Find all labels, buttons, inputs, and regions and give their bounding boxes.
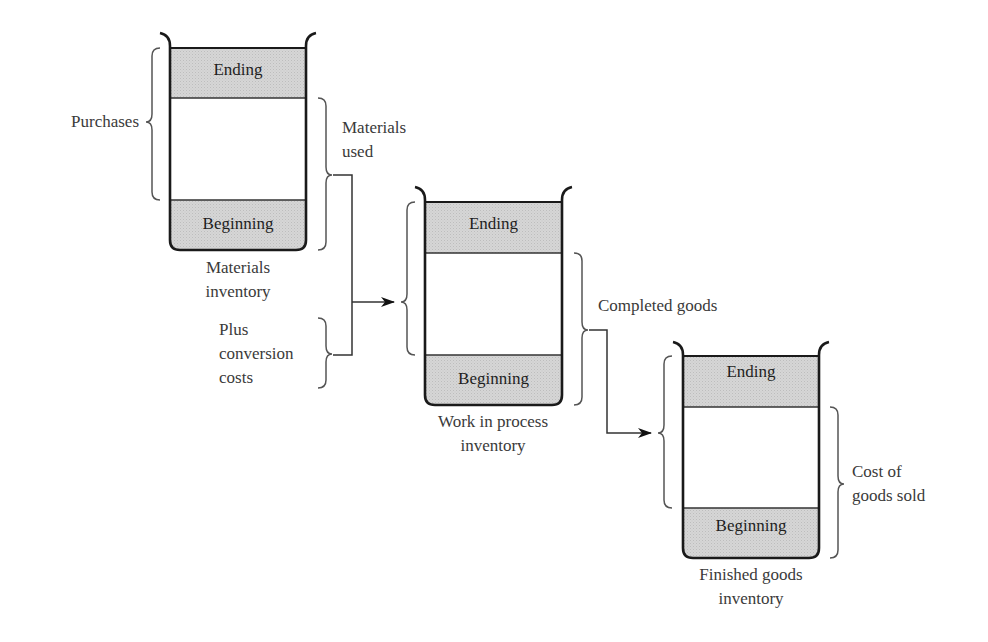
purchases-brace bbox=[146, 48, 160, 200]
completed-goods-brace bbox=[574, 253, 588, 405]
materials-used-label-line2: used bbox=[342, 140, 373, 164]
completed-goods-label: Completed goods bbox=[598, 294, 717, 318]
materials-to-wip-connector bbox=[333, 175, 352, 355]
materials-caption-line1: Materials bbox=[168, 256, 308, 280]
materials-middle-band bbox=[170, 98, 306, 200]
purchases-label: Purchases bbox=[0, 110, 139, 134]
fg-middle-band bbox=[683, 407, 819, 508]
cogs-label-line1: Cost of bbox=[852, 460, 902, 484]
inventory-flow-diagram bbox=[0, 0, 988, 642]
fg-caption-line2: inventory bbox=[671, 587, 831, 611]
costs-label: costs bbox=[219, 366, 253, 390]
wip-ending-label: Ending bbox=[425, 214, 562, 234]
wip-input-brace bbox=[401, 202, 415, 355]
materials-caption-line2: inventory bbox=[168, 280, 308, 304]
wip-to-fg-arrow bbox=[589, 330, 651, 433]
fg-beginning-label: Beginning bbox=[683, 516, 819, 536]
fg-input-brace bbox=[658, 356, 672, 508]
conversion-costs-brace bbox=[318, 318, 332, 388]
materials-used-label-line1: Materials bbox=[342, 116, 406, 140]
wip-middle-band bbox=[425, 253, 562, 355]
wip-beginning-label: Beginning bbox=[425, 369, 562, 389]
fg-ending-label: Ending bbox=[683, 362, 819, 382]
plus-label: Plus bbox=[219, 318, 248, 342]
materials-beginning-label: Beginning bbox=[170, 214, 306, 234]
cogs-brace bbox=[830, 407, 844, 558]
materials-used-brace bbox=[318, 98, 332, 250]
conversion-label: conversion bbox=[219, 342, 294, 366]
cogs-label-line2: goods sold bbox=[852, 484, 925, 508]
materials-ending-label: Ending bbox=[170, 60, 306, 80]
fg-caption-line1: Finished goods bbox=[671, 563, 831, 587]
wip-caption-line2: inventory bbox=[413, 434, 573, 458]
wip-caption-line1: Work in process bbox=[413, 410, 573, 434]
